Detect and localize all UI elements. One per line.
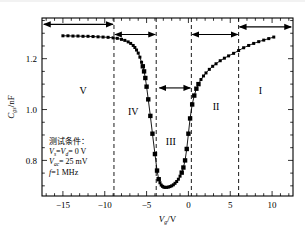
data-point-marker [272, 36, 275, 39]
data-point-marker [137, 52, 140, 55]
x-tick-label: 5 [228, 200, 233, 210]
data-point-marker [135, 49, 138, 52]
data-point-marker [242, 46, 245, 49]
data-point-marker [153, 152, 157, 156]
data-point-marker [92, 35, 95, 38]
data-point-marker [180, 170, 184, 174]
data-point-marker [247, 44, 250, 47]
data-point-marker [232, 52, 235, 55]
x-tick-label: 0 [186, 200, 191, 210]
region-label-V: V [79, 85, 87, 96]
region-label-IV: IV [128, 106, 139, 117]
data-point-marker [186, 132, 190, 136]
x-tick-label: −10 [98, 200, 113, 210]
data-point-marker [66, 34, 69, 37]
data-point-marker [194, 86, 198, 90]
data-point-marker [219, 59, 222, 62]
data-point-marker [188, 116, 192, 120]
data-point-marker [196, 82, 200, 86]
data-point-marker [215, 62, 218, 65]
data-point-marker [102, 36, 105, 39]
data-point-marker [144, 84, 148, 88]
data-point-marker [87, 35, 90, 38]
data-point-marker [181, 165, 185, 169]
x-tick-label: −5 [142, 200, 152, 210]
data-point-marker [138, 56, 141, 59]
data-point-marker [155, 168, 159, 172]
data-point-marker [199, 78, 202, 81]
data-point-marker [141, 64, 145, 68]
data-point-marker [237, 49, 240, 52]
y-axis-label: Cgs/nF [6, 95, 17, 118]
data-point-marker [208, 68, 211, 71]
data-point-marker [190, 102, 194, 106]
data-point-marker [257, 40, 260, 43]
data-point-marker [107, 36, 110, 39]
y-tick-label: 1.0 [26, 105, 38, 115]
data-point-marker [179, 175, 182, 178]
data-point-marker [204, 71, 207, 74]
data-point-marker [143, 76, 147, 80]
data-point-marker [183, 158, 187, 162]
annotation-title: 测试条件： [49, 136, 89, 146]
y-tick-label: 0.8 [26, 156, 38, 166]
y-tick-label: 1.2 [26, 54, 37, 64]
data-point-marker [252, 42, 255, 45]
data-point-marker [262, 39, 265, 42]
data-point-marker [157, 177, 161, 181]
data-point-marker [61, 34, 64, 37]
data-point-marker [192, 93, 196, 97]
region-label-III: III [166, 136, 176, 147]
region-label-I: I [259, 85, 262, 96]
data-point-marker [223, 57, 226, 60]
data-point-marker [123, 39, 126, 42]
data-point-marker [185, 147, 189, 151]
region-label-II: II [213, 101, 220, 112]
data-point-marker [148, 114, 152, 118]
data-point-marker [211, 65, 214, 68]
data-point-marker [76, 35, 79, 38]
data-point-marker [120, 38, 123, 41]
data-point-marker [202, 74, 205, 77]
x-tick-label: 10 [268, 200, 278, 210]
data-point-marker [142, 69, 146, 73]
data-point-marker [97, 35, 100, 38]
data-point-marker [112, 36, 115, 39]
data-point-marker [116, 37, 119, 40]
data-point-marker [177, 178, 180, 181]
data-point-marker [82, 35, 85, 38]
data-point-marker [140, 61, 143, 64]
plot-background [42, 18, 293, 196]
data-point-marker [71, 35, 74, 38]
data-point-marker [150, 132, 154, 136]
cv-characteristic-chart: −15−10−505100.81.01.2IIIIIIIVVVg/VCgs/nF… [0, 0, 305, 242]
data-point-marker [227, 54, 230, 57]
data-point-marker [146, 97, 150, 101]
x-tick-label: −15 [56, 200, 71, 210]
chart-figure: −15−10−505100.81.01.2IIIIIIIVVVg/VCgs/nF… [0, 0, 305, 242]
annotation-line-frequency: f=1 MHz [49, 168, 79, 177]
x-axis-label: Vg/V [159, 214, 177, 225]
data-point-marker [267, 37, 270, 40]
